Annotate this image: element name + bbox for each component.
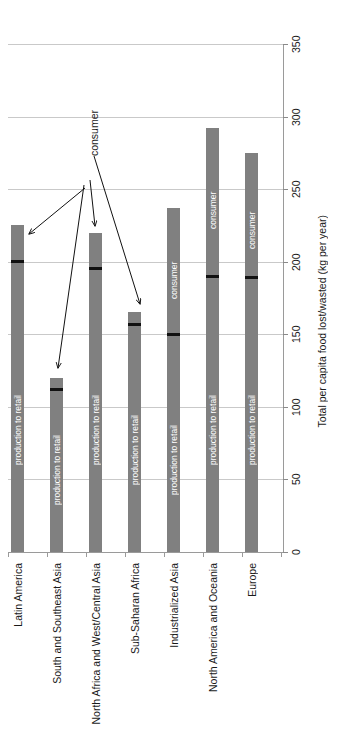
category-label-north-america-and-oceania: North America and Oceania — [207, 563, 219, 692]
category-tick — [8, 552, 9, 557]
gridline-150 — [8, 334, 283, 335]
bar-segment-label-consumer-6: consumer — [245, 180, 258, 280]
category-label-sub-saharan-africa: Sub-Saharan Africa — [129, 563, 141, 654]
gridline-350 — [8, 44, 283, 45]
value-tick-label-300: 300 — [290, 105, 302, 129]
category-label-north-africa-and-west-central-asia: North Africa and West/Central Asia — [90, 563, 102, 724]
category-tick — [242, 552, 243, 557]
bar-divider-6 — [245, 276, 258, 279]
bar-segment-label-production-7: production to retail — [245, 350, 258, 510]
bar-segment-label-consumer-5: consumer — [206, 160, 219, 260]
gridline-300 — [8, 117, 283, 118]
category-tick — [125, 552, 126, 557]
value-tick-150 — [283, 334, 288, 335]
annotation-label-consumer: consumer — [88, 110, 100, 156]
value-tick-0 — [283, 552, 288, 553]
category-tick — [86, 552, 87, 557]
bar-chart: 350 300 250 200 150 100 50 0 Total per c… — [0, 0, 338, 747]
bar-divider-0 — [11, 260, 24, 263]
value-tick-label-100: 100 — [290, 395, 302, 419]
category-tick — [164, 552, 165, 557]
value-axis-line — [283, 44, 284, 553]
bar-segment-label-consumer-4: consumer — [167, 230, 180, 330]
bar-divider-3 — [128, 323, 141, 326]
bar-segment-label-production-0: production to retail — [11, 350, 24, 510]
value-tick-label-50: 50 — [290, 470, 302, 488]
bar-divider-1 — [50, 388, 63, 391]
value-tick-label-250: 250 — [290, 177, 302, 201]
bar-segment-label-production-5: production to retail — [167, 380, 180, 540]
value-tick-50 — [283, 479, 288, 480]
value-tick-300 — [283, 117, 288, 118]
value-tick-250 — [283, 189, 288, 190]
bar-divider-5 — [206, 275, 219, 278]
category-tick — [203, 552, 204, 557]
category-label-industrialized-asia: Industrialized Asia — [168, 563, 180, 648]
value-tick-label-150: 150 — [290, 322, 302, 346]
bar-divider-2 — [89, 267, 102, 270]
arrow-to-latin-america — [29, 188, 85, 234]
bar-segment-label-production-3: production to retail — [128, 370, 141, 530]
category-tick — [47, 552, 48, 557]
arrow-to-north-africa-and-west-central-asia — [90, 180, 95, 226]
value-tick-label-0: 0 — [290, 545, 302, 559]
bar-segment-label-production-2: production to retail — [89, 350, 102, 510]
value-tick-label-200: 200 — [290, 250, 302, 274]
category-label-europe: Europe — [246, 563, 258, 597]
value-tick-200 — [283, 262, 288, 263]
bar-divider-4 — [167, 333, 180, 336]
value-axis-title: Total per capita food lost/wasted (kg pe… — [316, 215, 328, 427]
bar-segment-label-production-6: production to retail — [206, 350, 219, 510]
category-tick — [281, 552, 282, 557]
value-tick-label-350: 350 — [290, 32, 302, 56]
gridline-200 — [8, 262, 283, 263]
value-tick-100 — [283, 407, 288, 408]
value-tick-350 — [283, 44, 288, 45]
gridline-250 — [8, 189, 283, 190]
bar-segment-label-production-1: production to retail — [50, 400, 63, 540]
category-label-latin-america: Latin America — [12, 563, 24, 627]
category-label-south-and-southeast-asia: South and Southeast Asia — [51, 563, 63, 684]
arrow-to-south-and-southeast-asia — [58, 185, 84, 368]
